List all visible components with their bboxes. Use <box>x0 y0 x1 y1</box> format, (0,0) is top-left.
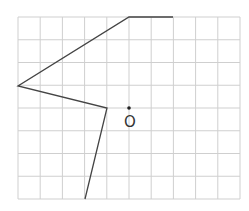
center-point-o <box>127 106 131 110</box>
point-label-o: O <box>124 113 136 131</box>
grid-diagram: O <box>0 0 249 211</box>
